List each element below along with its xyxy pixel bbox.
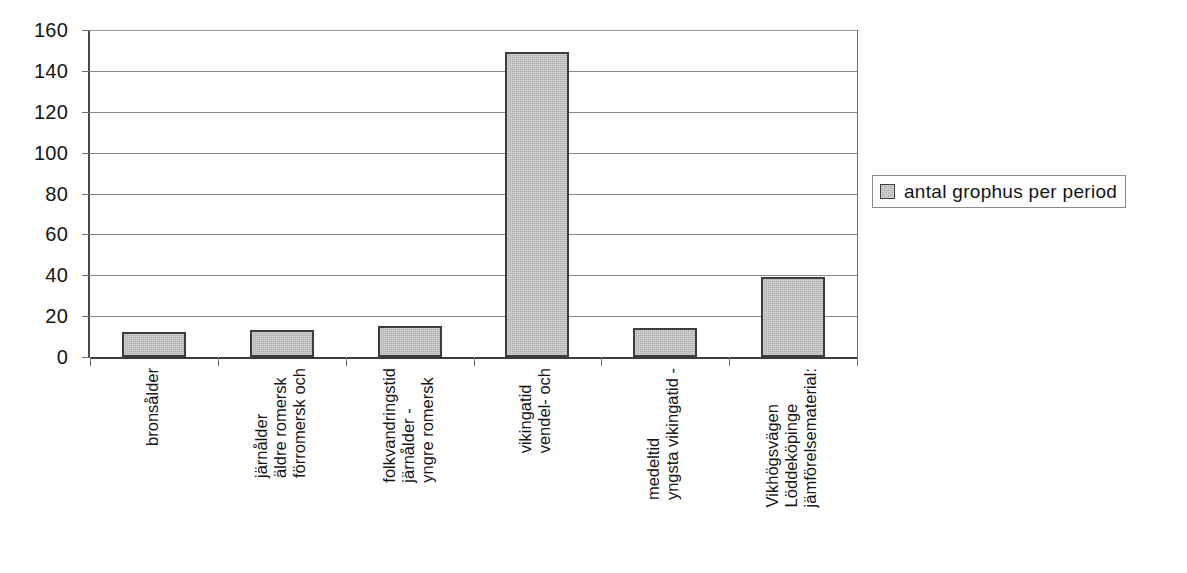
gridline: [90, 275, 857, 276]
y-tick-label: 60: [45, 224, 68, 244]
gridline: [90, 234, 857, 235]
bar: [505, 52, 569, 357]
legend-label: antal grophus per period: [904, 181, 1117, 202]
x-tick-mark: [857, 357, 858, 366]
x-category-label-line: Löddeköpinge: [782, 402, 801, 508]
x-category-label-line: vikingatid: [516, 383, 535, 454]
gridline: [90, 194, 857, 195]
y-tick-label: 140: [34, 61, 68, 81]
y-tick-label: 20: [45, 306, 68, 326]
y-tick-mark: [82, 234, 90, 235]
gridline: [90, 112, 857, 113]
bar: [761, 277, 825, 357]
chart-legend: antal grophus per period: [872, 175, 1126, 208]
y-axis: 160140120100806040200: [0, 0, 78, 380]
x-tick-mark: [601, 357, 602, 366]
y-tick-label: 100: [34, 143, 68, 163]
y-tick-mark: [82, 153, 90, 154]
y-tick-mark: [82, 357, 90, 358]
x-category-label-line: järnålder: [251, 412, 270, 478]
x-category-label-line: vendel- och: [535, 366, 554, 453]
x-axis-category-labels: bronsålderförromersk ochäldre romerskjär…: [88, 366, 855, 573]
bar: [378, 326, 442, 357]
y-tick-label: 40: [45, 265, 68, 285]
x-tick-mark: [90, 357, 91, 366]
y-tick-mark: [82, 30, 90, 31]
x-category-label-line: järnålder -: [398, 406, 417, 482]
y-tick-mark: [82, 316, 90, 317]
gridline: [90, 71, 857, 72]
x-category-label-line: folkvandringstid: [379, 366, 398, 483]
y-tick-label: 80: [45, 184, 68, 204]
x-category-label-line: yngre romersk: [417, 375, 436, 482]
x-category-label-line: bronsålder: [142, 366, 161, 446]
y-tick-mark: [82, 194, 90, 195]
legend-swatch-icon: [880, 184, 895, 199]
x-category-label-line: yngsta vikingatid -: [663, 366, 682, 500]
bar: [250, 330, 314, 357]
y-tick-label: 120: [34, 102, 68, 122]
y-tick-label: 160: [34, 20, 68, 40]
x-tick-mark: [474, 357, 475, 366]
gridline: [90, 316, 857, 317]
x-category-label-line: förromersk och: [289, 366, 308, 478]
y-tick-mark: [82, 275, 90, 276]
plot-area: [88, 30, 858, 357]
gridline: [90, 30, 857, 31]
bar-chart: 160140120100806040200 bronsålderförromer…: [0, 0, 1187, 573]
y-tick-label: 0: [57, 347, 68, 367]
x-category-label-line: äldre romersk: [270, 375, 289, 478]
x-category-label-line: jämförelsematerial:: [801, 366, 820, 507]
x-tick-mark: [729, 357, 730, 366]
x-category-label-line: Vikhögsvägen: [763, 402, 782, 507]
x-tick-mark: [218, 357, 219, 366]
y-tick-mark: [82, 71, 90, 72]
bar: [122, 332, 186, 357]
bar: [633, 328, 697, 357]
gridline: [90, 153, 857, 154]
y-tick-mark: [82, 112, 90, 113]
x-category-label-line: medeltid: [644, 436, 663, 500]
x-tick-mark: [346, 357, 347, 366]
